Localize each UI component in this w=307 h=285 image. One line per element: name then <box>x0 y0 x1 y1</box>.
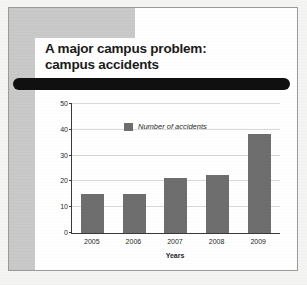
chart-bar-slot <box>72 104 114 233</box>
slide-title-line-1: A major campus problem: <box>45 41 285 57</box>
chart-plot-area: 01020304050 Number of accidents <box>71 104 280 234</box>
redacted-text-bar <box>13 78 290 90</box>
chart-legend: Number of accidents <box>124 122 207 131</box>
chart-bar <box>81 194 104 233</box>
chart-y-tick-label: 20 <box>60 177 68 184</box>
chart-bar-slot <box>238 104 280 233</box>
chart-x-tick-label: 2009 <box>237 238 279 245</box>
chart-y-tick-label: 0 <box>64 229 68 236</box>
slide-title-line-2: campus accidents <box>45 57 285 73</box>
chart-x-tick-label: 2006 <box>113 238 155 245</box>
chart-x-tick-label: 2008 <box>196 238 238 245</box>
chart-x-tick-label: 2007 <box>154 238 196 245</box>
chart-x-tick-labels: 20052006200720082009 <box>71 238 279 245</box>
chart-bar <box>248 134 271 233</box>
slide-title: A major campus problem: campus accidents <box>45 41 285 72</box>
legend-swatch-icon <box>124 123 133 131</box>
chart-y-tick-label: 50 <box>60 100 68 107</box>
chart-x-axis-title: Years <box>71 252 279 259</box>
accidents-bar-chart: 01020304050 Number of accidents 20052006… <box>45 98 289 266</box>
top-grey-band <box>9 8 135 38</box>
chart-y-tick-label: 10 <box>60 203 68 210</box>
chart-x-tick-label: 2005 <box>71 238 113 245</box>
chart-y-tick-label: 40 <box>60 125 68 132</box>
chart-bar <box>123 194 146 233</box>
chart-bar <box>206 175 229 233</box>
scanned-page-background: A major campus problem: campus accidents… <box>0 0 307 285</box>
legend-label: Number of accidents <box>138 122 207 131</box>
chart-bar <box>164 178 187 233</box>
left-grey-band <box>9 8 35 270</box>
slide-card: A major campus problem: campus accidents… <box>8 7 298 271</box>
chart-y-tick-label: 30 <box>60 151 68 158</box>
